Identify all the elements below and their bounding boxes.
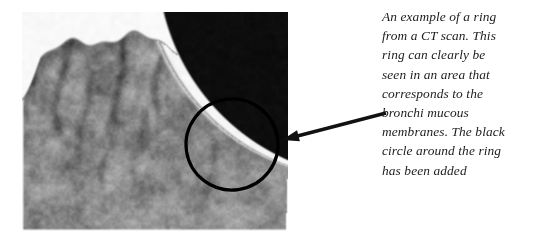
caption-line: seen in an area that [382,65,528,84]
caption-line: corresponds to the [382,84,528,103]
caption-line: has been added [382,161,528,180]
caption-line: ring can clearly be [382,45,528,64]
figure-page: An example of a ring from a CT scan. Thi… [0,0,534,242]
ct-scan-canvas [22,12,288,231]
caption-line: bronchi mucous [382,103,528,122]
figure-caption: An example of a ring from a CT scan. Thi… [382,7,528,180]
caption-line: membranes. The black [382,122,528,141]
annotation-arrow-shaft [295,113,386,137]
caption-line: circle around the ring [382,141,528,160]
caption-line: from a CT scan. This [382,26,528,45]
caption-line: An example of a ring [382,7,528,26]
ct-scan-image [22,12,288,231]
